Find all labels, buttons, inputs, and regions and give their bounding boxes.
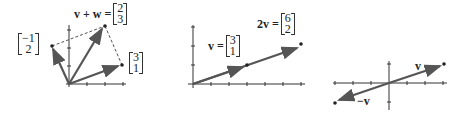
twov-y: 2	[285, 24, 291, 35]
v-label: 31	[127, 52, 143, 74]
sum-label: v + w = 23	[74, 3, 127, 25]
v-label-3: v	[415, 59, 421, 74]
w-y: 2	[25, 44, 31, 55]
v-vector-2	[193, 67, 243, 84]
sum-y: 3	[117, 14, 123, 25]
negv-label: −v	[357, 94, 370, 109]
v-label-2: v = 31	[208, 35, 240, 57]
w-label: −12	[16, 33, 39, 55]
sum-vector	[69, 29, 102, 84]
v2-y: 1	[230, 46, 236, 57]
panel1-axes	[66, 25, 126, 87]
w-vector	[53, 49, 69, 84]
twov-label-text: 2v =	[257, 17, 279, 32]
twov-label: 2v = 62	[257, 13, 295, 35]
v-y: 1	[133, 63, 139, 74]
v-vector	[69, 66, 118, 84]
v-label-text: v =	[208, 39, 224, 54]
sum-label-text: v + w =	[74, 7, 111, 22]
